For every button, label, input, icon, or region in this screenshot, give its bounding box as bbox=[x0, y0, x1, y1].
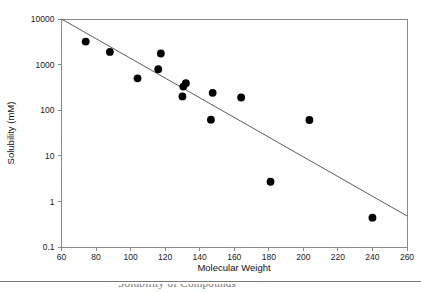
y-axis-tick-labels: 0.1110100100010000 bbox=[31, 14, 55, 252]
data-point-group bbox=[82, 38, 377, 222]
data-point bbox=[237, 94, 245, 102]
fit-line-segment bbox=[62, 19, 408, 216]
clipped-caption-region: Solubility of Compounds bbox=[0, 284, 421, 292]
clipped-caption-text: Solubility of Compounds bbox=[118, 284, 236, 289]
x-tick-label: 60 bbox=[57, 252, 67, 262]
data-point bbox=[306, 116, 314, 124]
y-tick-label: 1000 bbox=[36, 60, 55, 70]
data-point bbox=[209, 89, 217, 97]
x-tick-label: 100 bbox=[124, 252, 138, 262]
footer-divider-rule bbox=[0, 281, 421, 282]
x-tick-label: 140 bbox=[193, 252, 207, 262]
y-tick-label: 10 bbox=[45, 151, 55, 161]
data-point bbox=[182, 79, 190, 87]
x-tick-label: 160 bbox=[227, 252, 241, 262]
regression-fit-line bbox=[62, 19, 408, 216]
x-tick-label: 200 bbox=[296, 252, 310, 262]
x-axis-ticks bbox=[62, 247, 408, 251]
x-axis-title: Molecular Weight bbox=[197, 262, 271, 273]
chart-figure: 6080100120140160180200220240260 0.111010… bbox=[0, 0, 421, 292]
x-tick-label: 120 bbox=[158, 252, 172, 262]
x-tick-label: 180 bbox=[262, 252, 276, 262]
x-axis-tick-labels: 6080100120140160180200220240260 bbox=[57, 252, 415, 262]
y-axis-ticks bbox=[58, 19, 62, 247]
data-point bbox=[267, 178, 275, 186]
x-tick-label: 80 bbox=[91, 252, 101, 262]
x-tick-label: 240 bbox=[365, 252, 379, 262]
solubility-vs-molecular-weight-scatter-plot: 6080100120140160180200220240260 0.111010… bbox=[0, 0, 421, 292]
y-tick-label: 10000 bbox=[31, 14, 55, 24]
x-tick-label: 220 bbox=[331, 252, 345, 262]
y-axis-title: Solubility (mM) bbox=[5, 102, 16, 165]
data-point bbox=[179, 93, 187, 101]
y-tick-label: 100 bbox=[40, 105, 54, 115]
data-point bbox=[134, 74, 142, 82]
x-tick-label: 260 bbox=[400, 252, 414, 262]
data-point bbox=[369, 214, 377, 222]
y-tick-label: 1 bbox=[50, 197, 55, 207]
data-point bbox=[207, 116, 215, 124]
data-point bbox=[154, 65, 162, 73]
y-tick-label: 0.1 bbox=[43, 242, 55, 252]
data-point bbox=[157, 50, 165, 58]
data-point bbox=[82, 38, 90, 46]
data-point bbox=[106, 48, 114, 56]
